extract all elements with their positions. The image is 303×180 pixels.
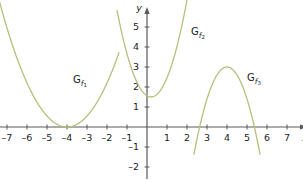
y-tick-label: 1 — [133, 101, 139, 112]
curve-g_f2 — [117, 0, 187, 97]
x-tick-label: 3 — [204, 132, 210, 143]
x-tick-label: –3 — [82, 132, 93, 143]
y-axis-label: y — [135, 2, 142, 13]
curve-label-g_f3: Gf3 — [247, 72, 261, 86]
curve-label-text: Gf3 — [247, 72, 261, 86]
y-tick-label: –1 — [128, 141, 139, 152]
y-axis-arrow — [144, 7, 149, 14]
x-tick-label: –2 — [102, 132, 113, 143]
graph-figure: –7–6–5–4–3–2–11234567–2–112345xyGf1Gf2Gf… — [0, 0, 303, 180]
curve-label-text: Gf1 — [73, 74, 87, 88]
x-axis-label: x — [301, 132, 303, 143]
x-tick-label: 7 — [284, 132, 290, 143]
x-tick-label: –7 — [2, 132, 13, 143]
x-tick-label: –6 — [22, 132, 33, 143]
y-tick-label: 5 — [133, 21, 139, 32]
coordinate-plot: –7–6–5–4–3–2–11234567–2–112345xyGf1Gf2Gf… — [0, 0, 303, 180]
x-axis-arrow — [300, 124, 303, 129]
curve-label-g_f1: Gf1 — [73, 74, 87, 88]
x-tick-label: 4 — [224, 132, 230, 143]
x-tick-label: 6 — [264, 132, 270, 143]
curve-g_f1 — [0, 0, 119, 127]
x-tick-label: –5 — [42, 132, 53, 143]
x-tick-label: –4 — [62, 132, 73, 143]
x-tick-label: 2 — [184, 132, 190, 143]
x-tick-label: 5 — [244, 132, 250, 143]
y-tick-label: 3 — [133, 61, 139, 72]
y-tick-label: –2 — [128, 161, 139, 172]
curve-label-g_f2: Gf2 — [191, 26, 205, 40]
curve-label-text: Gf2 — [191, 26, 205, 40]
x-tick-label: 1 — [164, 132, 170, 143]
y-tick-label: 4 — [133, 41, 139, 52]
y-tick-label: 2 — [133, 81, 139, 92]
